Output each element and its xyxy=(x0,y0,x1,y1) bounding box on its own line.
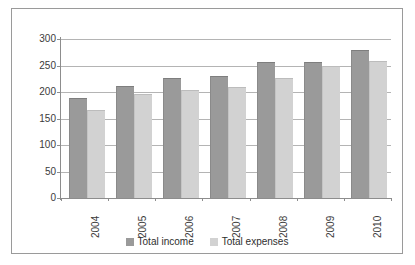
x-axis-tick xyxy=(202,198,203,201)
y-axis-tick-label: 100 xyxy=(30,140,56,150)
y-axis-tick-label: 50 xyxy=(30,167,56,177)
legend-item-total-income: Total income xyxy=(126,237,194,247)
y-axis-tick-label: 200 xyxy=(30,87,56,97)
x-axis-tick xyxy=(250,198,251,201)
x-axis-tick-label: 2006 xyxy=(185,216,195,238)
chart-frame: 050100150200250300 200420052006200720082… xyxy=(11,8,403,254)
y-axis-tick-labels: 050100150200250300 xyxy=(26,9,56,253)
y-axis-tick-label: 150 xyxy=(30,114,56,124)
y-axis-tick xyxy=(57,198,61,199)
y-axis-tick xyxy=(57,39,61,40)
plot-area xyxy=(61,39,391,198)
bar-group xyxy=(163,39,199,198)
bar-income xyxy=(210,76,228,198)
y-axis-tick xyxy=(57,92,61,93)
y-axis-tick-label: 300 xyxy=(30,34,56,44)
y-axis-tick xyxy=(57,66,61,67)
bar-expenses xyxy=(228,87,246,198)
y-axis-tick xyxy=(57,172,61,173)
x-axis-tick xyxy=(297,198,298,201)
legend-label-total-expenses: Total expenses xyxy=(222,237,289,247)
x-axis-tick xyxy=(108,198,109,201)
x-axis-tick xyxy=(61,198,62,201)
x-axis-tick xyxy=(155,198,156,201)
x-axis-tick-label: 2004 xyxy=(91,216,101,238)
x-axis-tick-label: 2005 xyxy=(138,216,148,238)
bar-group xyxy=(351,39,387,198)
bar-expenses xyxy=(134,94,152,198)
bar-expenses xyxy=(275,78,293,198)
bar-income xyxy=(257,62,275,198)
bar-expenses xyxy=(369,61,387,198)
x-axis-tick-label: 2008 xyxy=(279,216,289,238)
bar-group xyxy=(116,39,152,198)
bar-income xyxy=(304,62,322,198)
y-axis-tick-label: 250 xyxy=(30,61,56,71)
x-axis-tick xyxy=(344,198,345,201)
y-axis-tick xyxy=(57,145,61,146)
legend-swatch-expenses-icon xyxy=(210,238,218,246)
gridline xyxy=(61,198,391,199)
bar-group xyxy=(69,39,105,198)
bar-income xyxy=(116,86,134,198)
bar-group xyxy=(304,39,340,198)
chart-legend: Total income Total expenses xyxy=(12,237,402,247)
bar-income xyxy=(163,78,181,198)
bar-income xyxy=(351,50,369,198)
legend-item-total-expenses: Total expenses xyxy=(210,237,289,247)
x-axis-tick xyxy=(391,198,392,201)
bar-expenses xyxy=(87,110,105,198)
x-axis-tick-label: 2010 xyxy=(373,216,383,238)
x-axis-tick-label: 2007 xyxy=(232,216,242,238)
bar-group xyxy=(210,39,246,198)
x-axis-tick-label: 2009 xyxy=(326,216,336,238)
bar-expenses xyxy=(322,66,340,199)
legend-swatch-income-icon xyxy=(126,238,134,246)
legend-label-total-income: Total income xyxy=(138,237,194,247)
bar-group xyxy=(257,39,293,198)
y-axis-tick-label: 0 xyxy=(30,193,56,203)
bar-expenses xyxy=(181,90,199,198)
y-axis-tick xyxy=(57,119,61,120)
bar-income xyxy=(69,98,87,198)
